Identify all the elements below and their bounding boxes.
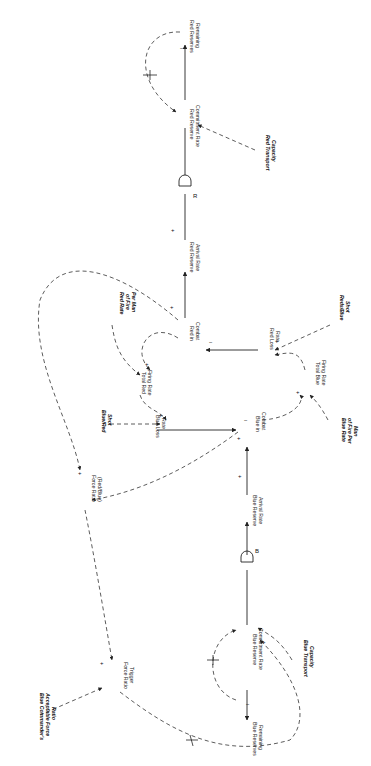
node-red-in-combat: Red in Combat — [189, 322, 201, 341]
svg-text:R: R — [193, 193, 198, 199]
svg-text:Commitment Rate: Commitment Rate — [195, 105, 201, 147]
svg-text:Arrival Rate: Arrival Rate — [258, 497, 264, 524]
svg-text:Trigger: Trigger — [129, 667, 135, 684]
svg-text:Capacity: Capacity — [271, 140, 277, 163]
svg-text:Blue Reserve: Blue Reserve — [252, 495, 258, 526]
svg-text:Blue Reserves: Blue Reserves — [252, 722, 258, 756]
svg-text:Combat: Combat — [261, 412, 267, 431]
node-total-red-firing-rate: Total Red Firing Rate — [141, 370, 153, 395]
svg-text:Force Ratio: Force Ratio — [123, 662, 129, 689]
causal-links — [38, 32, 330, 746]
svg-text:+: + — [100, 660, 104, 666]
node-reds-blue-shot: Reds/Blue Shot — [339, 295, 351, 320]
svg-text:Red Reserve: Red Reserve — [189, 109, 195, 139]
svg-text:Acceptable Force: Acceptable Force — [45, 692, 51, 736]
blue-delay-gate: B — [241, 548, 259, 562]
svg-text:+: + — [78, 470, 82, 476]
svg-text:Blue/Red: Blue/Red — [101, 410, 107, 433]
svg-text:Capacity: Capacity — [309, 646, 315, 669]
svg-text:Remaining: Remaining — [195, 23, 201, 48]
svg-text:+: + — [296, 389, 300, 395]
svg-text:Blue Reserve: Blue Reserve — [252, 634, 258, 665]
svg-text:Red in: Red in — [189, 326, 195, 341]
node-red-rate-of-fire: Red Rate of Fire Per Man — [119, 292, 137, 315]
svg-text:Shot: Shot — [345, 301, 351, 313]
svg-text:Red Reserve: Red Reserve — [189, 242, 195, 272]
node-blue-rate-of-fire: Blue Rate of Fire Per Man — [341, 418, 359, 445]
node-force-ratio: Force Ratio (Red/Blue) — [91, 475, 103, 502]
svg-text:Ratio: Ratio — [51, 707, 57, 720]
node-blue-red-shot: Blue/Red Shot — [101, 410, 113, 433]
svg-text:Red Loss: Red Loss — [269, 328, 275, 350]
svg-text:Blue Rate: Blue Rate — [341, 418, 347, 442]
svg-text:Rate: Rate — [275, 331, 281, 342]
flow-lines — [157, 45, 258, 720]
svg-text:+: + — [170, 304, 174, 310]
svg-text:+: + — [238, 473, 242, 479]
svg-text:+: + — [145, 361, 149, 367]
svg-text:Shot: Shot — [107, 414, 113, 426]
svg-text:Man: Man — [353, 426, 359, 436]
svg-text:Remaining: Remaining — [258, 725, 264, 750]
svg-text:−: − — [244, 417, 248, 423]
svg-text:of Fire: of Fire — [125, 294, 131, 310]
node-blue-reserve-arrival-rate: Blue Reserve Arrival Rate — [252, 495, 264, 526]
svg-text:Force Ratio: Force Ratio — [91, 475, 97, 502]
svg-text:+: + — [237, 435, 241, 441]
node-force-ratio-trigger: Force Ratio Trigger — [123, 662, 135, 689]
node-blue-reserves-remaining: Blue Reserves Remaining — [252, 722, 264, 756]
svg-text:Blue in: Blue in — [255, 416, 261, 432]
svg-text:Red Transport: Red Transport — [265, 135, 271, 171]
svg-text:−: − — [180, 45, 184, 51]
svg-text:−: − — [209, 339, 213, 345]
svg-text:Total Blue: Total Blue — [315, 362, 321, 385]
node-blue-loss-rate: Blue Loss Rate — [155, 415, 167, 438]
node-blue-reserve-commitment-rate: Blue Reserve Commitment Rate — [252, 628, 264, 670]
svg-text:Red Reserves: Red Reserves — [189, 20, 195, 53]
node-total-blue-firing-rate: Total Blue Firing Rate — [315, 360, 327, 385]
svg-text:+: + — [171, 227, 175, 233]
svg-text:Firing Rate: Firing Rate — [321, 360, 327, 385]
svg-text:Per Man: Per Man — [131, 292, 137, 312]
svg-text:(Red/Blue): (Red/Blue) — [97, 477, 103, 502]
svg-text:Total Red: Total Red — [141, 372, 147, 394]
svg-text:Reds/Blue: Reds/Blue — [339, 295, 345, 320]
red-delay-gate: R — [179, 175, 198, 199]
svg-text:−: − — [246, 701, 250, 707]
svg-text:Blue Transport: Blue Transport — [303, 640, 309, 677]
svg-text:Rate: Rate — [161, 418, 167, 429]
svg-text:B: B — [255, 548, 259, 554]
svg-text:Blue Loss: Blue Loss — [155, 415, 161, 438]
svg-text:Firing Rate: Firing Rate — [147, 370, 153, 395]
svg-text:of Fire Per: of Fire Per — [347, 418, 353, 445]
svg-text:Arrival Rate: Arrival Rate — [195, 244, 201, 271]
node-red-loss-rate: Red Loss Rate — [269, 328, 281, 350]
node-blue-commander-acceptable-force-ratio: Blue Commander's Acceptable Force Ratio — [39, 692, 57, 740]
node-blue-transport-capacity: Blue Transport Capacity — [303, 640, 315, 677]
svg-text:Commitment Rate: Commitment Rate — [258, 628, 264, 670]
svg-text:Combat: Combat — [195, 322, 201, 341]
node-red-reserve-commitment-rate: Red Reserve Commitment Rate — [189, 105, 201, 147]
node-red-reserve-arrival-rate: Red Reserve Arrival Rate — [189, 242, 201, 272]
causal-loop-diagram: R B — [0, 0, 371, 766]
node-red-transport-capacity: Red Transport Capacity — [265, 135, 277, 171]
svg-text:Blue Commander's: Blue Commander's — [39, 693, 45, 740]
node-blue-in-combat: Blue in Combat — [255, 412, 267, 432]
node-red-reserves-remaining: Red Reserves Remaining — [189, 20, 201, 53]
svg-text:Red Rate: Red Rate — [119, 292, 125, 315]
